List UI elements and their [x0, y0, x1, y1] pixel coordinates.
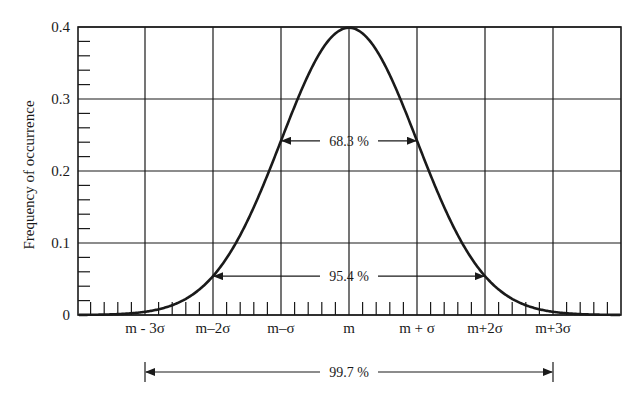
y-axis-tick-labels: 00.10.20.30.4: [51, 19, 70, 323]
x-tick-label: m–σ: [267, 320, 294, 336]
annotation-683: 68.3 %: [282, 134, 416, 149]
y-tick-label: 0.2: [51, 163, 70, 179]
y-tick-label: 0: [63, 307, 71, 323]
x-tick-label: m+2σ: [467, 320, 503, 336]
annotation-954: 95.4 %: [214, 269, 484, 284]
annotation-label: 68.3 %: [329, 134, 369, 149]
annotation-label: 99.7 %: [329, 365, 369, 380]
y-tick-label: 0.4: [51, 19, 70, 35]
normal-distribution-chart: 00.10.20.30.4 m - 3σm–2σm–σmm + σm+2σm+3…: [0, 0, 634, 398]
x-tick-label: m + σ: [399, 320, 435, 336]
annotation-997: 99.7 %: [145, 362, 553, 382]
y-tick-label: 0.1: [51, 235, 70, 251]
y-axis-label: Frequency of occurrence: [21, 100, 37, 249]
y-tick-label: 0.3: [51, 91, 70, 107]
x-tick-label: m - 3σ: [125, 320, 165, 336]
x-axis-tick-labels: m - 3σm–2σm–σmm + σm+2σm+3σ: [125, 320, 571, 336]
x-tick-label: m–2σ: [196, 320, 231, 336]
annotation-label: 95.4 %: [329, 269, 369, 284]
x-tick-label: m: [343, 320, 355, 336]
x-tick-label: m+3σ: [535, 320, 571, 336]
